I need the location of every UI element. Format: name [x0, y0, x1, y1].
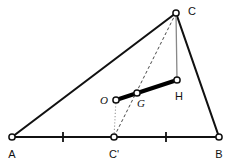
label-h: H: [175, 90, 183, 102]
vertex-node-cprime[interactable]: [111, 134, 117, 140]
figure-canvas: A B C C' O G H: [0, 0, 229, 167]
point-node-circumcenter-o[interactable]: [113, 97, 119, 103]
segment-euler-line-o-h: [116, 80, 177, 100]
geometry-figure: A B C C' O G H: [0, 0, 229, 167]
vertex-node-c[interactable]: [173, 10, 179, 16]
vertex-node-b[interactable]: [216, 134, 222, 140]
segment-side-BC: [176, 13, 219, 137]
segment-altitude-c-h: [176, 13, 177, 80]
point-node-centroid-g[interactable]: [134, 90, 140, 96]
label-o: O: [100, 94, 108, 106]
label-a: A: [8, 148, 16, 160]
label-b: B: [215, 148, 222, 160]
label-cprime: C': [109, 148, 119, 160]
label-g: G: [137, 97, 145, 109]
segment-perpbisector-o-cprime: [114, 100, 116, 137]
segment-median-c-cprime: [114, 13, 176, 137]
point-node-orthocenter-h[interactable]: [174, 77, 180, 83]
segment-side-AC: [12, 13, 176, 137]
vertex-node-a[interactable]: [9, 134, 15, 140]
label-c: C: [188, 5, 196, 17]
